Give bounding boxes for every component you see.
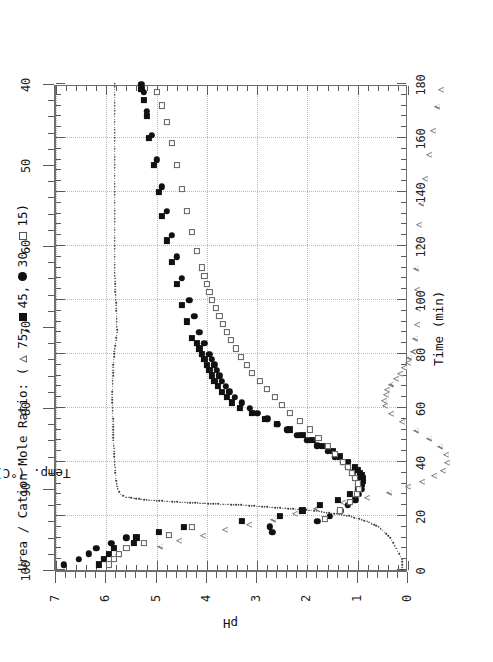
temperature-curve-dot <box>116 486 118 488</box>
axis-tick <box>56 310 61 311</box>
axis-tick <box>96 86 97 91</box>
axis-tick <box>56 267 61 268</box>
data-point-15 <box>249 370 255 376</box>
temperature-curve-dot <box>114 472 116 474</box>
temperature-curve-dot <box>112 434 114 436</box>
axis-tick <box>56 213 61 214</box>
gridline-vertical <box>56 137 406 138</box>
ph-axis-tick <box>366 572 367 578</box>
data-point-45 <box>95 562 101 568</box>
temperature-curve-dot <box>113 129 115 131</box>
axis-tick <box>176 565 177 570</box>
temperature-curve-dot <box>217 503 219 505</box>
data-point-15 <box>173 162 179 168</box>
ph-axis-tick <box>215 572 216 578</box>
temperature-curve-dot <box>235 504 237 506</box>
data-point-30 <box>138 81 144 87</box>
temperature-curve-dot <box>114 475 116 477</box>
axis-tick <box>56 342 61 343</box>
axis-tick <box>297 86 298 91</box>
temperature-curve-dot <box>113 137 115 139</box>
temperature-curve-dot <box>113 89 115 91</box>
data-point-30 <box>222 383 228 389</box>
ph-axis-tick <box>95 572 96 578</box>
temperature-curve-dot <box>112 364 114 366</box>
temperature-curve-dot <box>125 496 127 498</box>
temperature-curve-dot <box>111 394 113 396</box>
temperature-curve-dot <box>113 180 115 182</box>
data-point-75 <box>385 488 392 495</box>
axis-tick <box>337 86 338 91</box>
time-tick-label: 20 <box>414 510 428 524</box>
temperature-axis-tick <box>48 262 54 263</box>
axis-tick <box>401 126 406 127</box>
data-point-15 <box>193 248 199 254</box>
temperature-curve-dot <box>113 83 115 85</box>
gridline-vertical <box>56 191 406 192</box>
temperature-curve-dot <box>323 511 325 513</box>
temperature-curve-dot <box>368 522 370 524</box>
temperature-curve-dot <box>113 94 115 96</box>
rotated-figure-wrapper: Urea / Cation Mole Ratio: ( 75, 45, 30, … <box>29 29 465 633</box>
axis-tick <box>401 385 406 386</box>
temperature-curve-dot <box>113 267 115 269</box>
ph-axis-tick <box>65 572 66 578</box>
axis-tick <box>401 94 406 95</box>
data-point-30 <box>263 416 269 422</box>
temperature-axis-tick <box>43 327 54 328</box>
axis-tick <box>401 288 406 289</box>
temperature-curve-dot <box>207 503 209 505</box>
ph-axis-tick <box>225 572 226 578</box>
temperature-curve-dot <box>113 86 115 88</box>
data-point-45 <box>206 367 212 373</box>
temperature-curve-dot <box>263 506 265 508</box>
ph-axis-tick <box>276 572 277 578</box>
temperature-curve-dot <box>174 501 176 503</box>
temperature-curve-dot <box>114 297 116 299</box>
temperature-curve-dot <box>114 272 116 274</box>
temperature-curve-dot <box>401 564 403 566</box>
data-point-15 <box>188 229 194 235</box>
temperature-curve-dot <box>115 477 117 479</box>
axis-tick <box>56 256 61 257</box>
temperature-curve-dot <box>163 500 165 502</box>
data-point-45 <box>173 281 179 287</box>
axis-tick <box>196 86 197 91</box>
temperature-curve-dot <box>395 548 397 550</box>
chart-legend: Urea / Cation Mole Ratio: ( 75, 45, 30, … <box>15 204 30 571</box>
data-point-15 <box>203 281 209 287</box>
temperature-curve-dot <box>115 483 117 485</box>
axis-tick <box>401 396 406 397</box>
gridline-vertical <box>56 461 406 462</box>
temperature-axis-tick <box>48 181 54 182</box>
data-point-45 <box>158 213 164 219</box>
data-point-45 <box>347 491 353 497</box>
axis-tick <box>237 565 238 570</box>
temperature-axis-tick <box>48 359 54 360</box>
temperature-curve-dot <box>115 324 117 326</box>
temperature-axis-tick <box>48 343 54 344</box>
axis-tick <box>56 450 61 451</box>
data-point-30 <box>226 389 232 395</box>
data-point-15 <box>296 418 302 424</box>
temperature-axis-tick <box>48 392 54 393</box>
temperature-curve-dot <box>310 510 312 512</box>
ph-axis-tick <box>386 572 387 578</box>
temperature-axis-tick <box>43 408 54 409</box>
temperature-curve-dot <box>113 356 115 358</box>
temperature-curve-dot <box>113 248 115 250</box>
data-point-45 <box>133 535 139 541</box>
data-point-45 <box>276 513 282 519</box>
temperature-curve-dot <box>179 501 181 503</box>
temperature-curve-dot <box>250 505 252 507</box>
data-point-30 <box>314 443 320 449</box>
temperature-curve-dot <box>113 234 115 236</box>
axis-tick <box>56 115 61 116</box>
axis-tick <box>116 86 117 91</box>
temperature-curve-dot <box>112 359 114 361</box>
temperature-curve-dot <box>114 294 116 296</box>
temperature-curve-dot <box>353 517 355 519</box>
axis-tick <box>401 439 406 440</box>
temperature-curve-dot <box>394 545 396 547</box>
axis-tick <box>397 461 406 462</box>
